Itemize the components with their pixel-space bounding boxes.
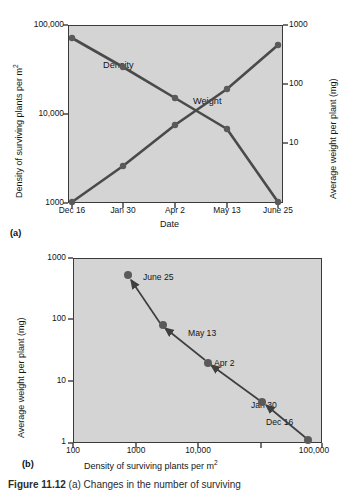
figure-caption: Figure 11.12 (a) Changes in the number o… (8, 479, 340, 491)
panel-b-arrow-jan30-apr2 (211, 365, 259, 400)
panel-b-point-may13 (159, 321, 167, 329)
panel-b-arrow-may13-june25 (131, 280, 160, 323)
panel-b-point-dec16 (304, 436, 312, 444)
figure-caption-text: (a) Changes in the number of surviving (69, 479, 241, 490)
panel-a-density-line (72, 38, 278, 202)
panel-a-graphics (0, 0, 340, 245)
panel-b-arrow-dec16-jan30 (266, 405, 306, 438)
panel-a: 100,000 10,000 1000 1000 100 10 Dec 16 J… (0, 0, 340, 245)
figure-caption-number: Figure 11.12 (8, 479, 66, 490)
panel-b-graphics (0, 245, 340, 479)
panel-b-point-apr2 (204, 359, 212, 367)
panel-b-point-jan30 (258, 398, 266, 406)
panel-b-point-june25 (124, 271, 132, 279)
panel-a-tag: (a) (10, 228, 21, 238)
panel-b-arrow-apr2-may13 (165, 328, 205, 360)
figure-container: 100,000 10,000 1000 1000 100 10 Dec 16 J… (0, 0, 340, 492)
panel-b: 1000 100 10 1 100 1000 10,000 100,000 De… (0, 245, 340, 479)
panel-b-tag: (b) (22, 459, 34, 469)
